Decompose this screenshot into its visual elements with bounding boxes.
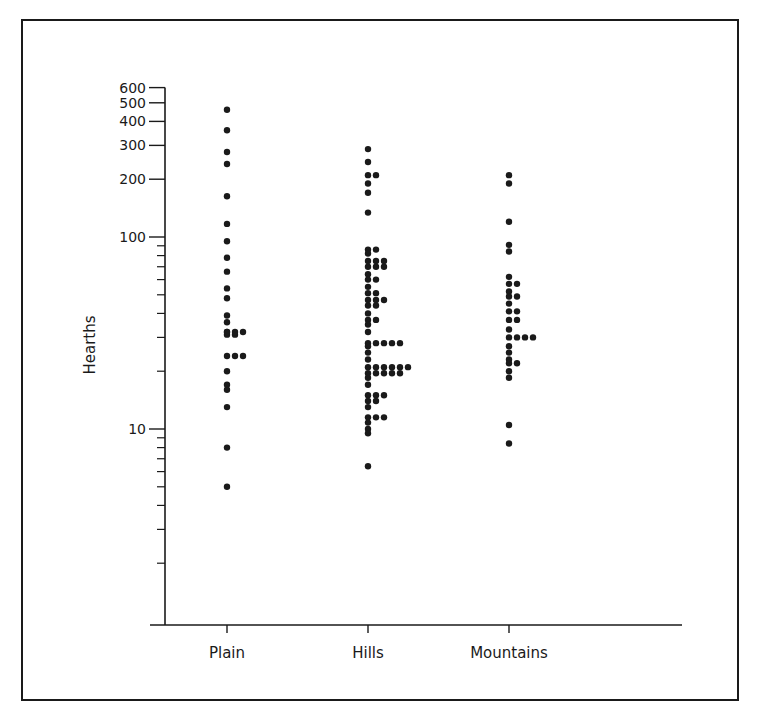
data-dot (506, 343, 512, 349)
data-dot (514, 308, 520, 314)
y-tick-label: 100 (119, 229, 146, 245)
data-dot (397, 364, 403, 370)
data-dot (506, 326, 512, 332)
data-dot (506, 440, 512, 446)
data-dot (224, 127, 230, 133)
data-dot (373, 317, 379, 323)
data-dot (365, 264, 371, 270)
y-tick-label: 300 (119, 137, 146, 153)
data-dot (365, 382, 371, 388)
data-dot (365, 310, 371, 316)
data-dot (365, 284, 371, 290)
data-dot (514, 317, 520, 323)
data-dot (224, 329, 230, 335)
data-dot (381, 364, 387, 370)
data-dot (506, 293, 512, 299)
series-hills (365, 146, 411, 470)
data-dot (389, 370, 395, 376)
data-dot (224, 238, 230, 244)
data-dot (381, 297, 387, 303)
data-dot (224, 193, 230, 199)
data-dot (514, 360, 520, 366)
data-dot (365, 159, 371, 165)
data-dot (365, 398, 371, 404)
data-dot (506, 375, 512, 381)
data-dot (365, 190, 371, 196)
y-tick-label: 500 (119, 95, 146, 111)
data-dot (389, 364, 395, 370)
data-dot (397, 370, 403, 376)
data-dot (506, 172, 512, 178)
data-points (224, 107, 536, 490)
data-dot (224, 285, 230, 291)
data-dot (365, 276, 371, 282)
data-dot (506, 219, 512, 225)
y-tick-label: 600 (119, 80, 146, 96)
data-dot (365, 404, 371, 410)
data-dot (365, 392, 371, 398)
data-dot (365, 419, 371, 425)
data-dot (506, 360, 512, 366)
data-dot (365, 250, 371, 256)
data-dot (506, 317, 512, 323)
data-dot (405, 364, 411, 370)
data-dot (373, 258, 379, 264)
y-tick-label: 10 (128, 421, 146, 437)
data-dot (506, 281, 512, 287)
x-category-label-hills: Hills (352, 644, 384, 662)
data-dot (530, 334, 536, 340)
data-dot (397, 340, 403, 346)
data-dot (373, 276, 379, 282)
data-dot (506, 242, 512, 248)
data-dot (514, 281, 520, 287)
data-dot (373, 172, 379, 178)
data-dot (365, 180, 371, 186)
data-dot (373, 414, 379, 420)
data-dot (373, 290, 379, 296)
data-dot (506, 368, 512, 374)
data-dot (506, 300, 512, 306)
data-dot (522, 334, 528, 340)
y-tick-label: 200 (119, 171, 146, 187)
data-dot (224, 221, 230, 227)
data-dot (365, 375, 371, 381)
data-dot (365, 430, 371, 436)
data-dot (224, 368, 230, 374)
data-dot (373, 246, 379, 252)
data-dot (365, 172, 371, 178)
data-dot (224, 444, 230, 450)
data-dot (381, 258, 387, 264)
data-dot (514, 293, 520, 299)
data-dot (506, 274, 512, 280)
data-dot (232, 353, 238, 359)
data-dot (365, 321, 371, 327)
series-plain (224, 107, 246, 490)
data-dot (240, 353, 246, 359)
data-dot (224, 255, 230, 261)
data-dot (506, 349, 512, 355)
data-dot (381, 414, 387, 420)
data-dot (373, 264, 379, 270)
data-dot (381, 340, 387, 346)
data-dot (232, 329, 238, 335)
data-dot (224, 149, 230, 155)
data-dot (365, 349, 371, 355)
data-dot (506, 248, 512, 254)
data-dot (224, 353, 230, 359)
data-dot (365, 356, 371, 362)
data-dot (224, 107, 230, 113)
data-dot (365, 258, 371, 264)
data-dot (373, 392, 379, 398)
data-dot (506, 180, 512, 186)
data-dot (365, 209, 371, 215)
data-dot (389, 340, 395, 346)
data-dot (224, 319, 230, 325)
data-dot (365, 302, 371, 308)
y-axis-title: Hearths (81, 315, 99, 374)
data-dot (506, 422, 512, 428)
data-dot (381, 264, 387, 270)
data-dot (224, 161, 230, 167)
data-dot (506, 334, 512, 340)
dot-plot-chart: 10100200300400500600PlainHillsMountains … (0, 0, 759, 719)
data-dot (506, 308, 512, 314)
